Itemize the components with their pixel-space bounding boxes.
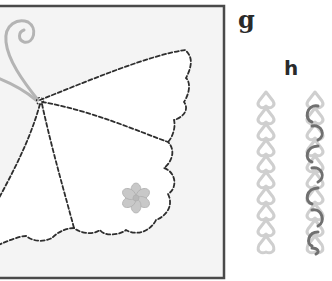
butterfly-panel <box>0 6 224 278</box>
embroidery-diagram: g h <box>0 0 332 281</box>
diagram-canvas <box>0 0 332 281</box>
whipped-chain-stitch-diagram <box>307 92 323 254</box>
panel-label-g: g <box>238 8 255 32</box>
chain-stitch-diagram <box>258 92 274 253</box>
panel-label-h: h <box>284 58 298 78</box>
